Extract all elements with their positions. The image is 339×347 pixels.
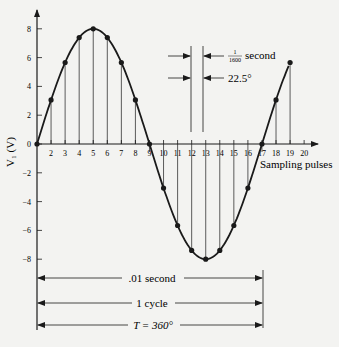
svg-text:second: second bbox=[245, 49, 276, 61]
span-time-label: .01 second bbox=[128, 272, 176, 284]
sample-point bbox=[91, 26, 96, 31]
sample-point bbox=[34, 141, 39, 146]
x-axis-label: Sampling pulses bbox=[260, 158, 332, 170]
x-tick-label: 6 bbox=[105, 149, 109, 158]
y-tick-label: 6 bbox=[27, 54, 31, 63]
sample-point bbox=[287, 60, 292, 65]
sample-point bbox=[245, 185, 250, 190]
interval-angle-label: 22.5° bbox=[228, 72, 252, 84]
y-tick-label: −4 bbox=[22, 198, 31, 207]
y-tick-label: 4 bbox=[27, 82, 31, 91]
sample-point bbox=[119, 60, 124, 65]
sample-point bbox=[147, 141, 152, 146]
sine-sampling-diagram: 86420−2−4−6−8 23456789101112131415161718… bbox=[0, 0, 339, 347]
sample-point bbox=[259, 141, 264, 146]
span-period-label: T = 360° bbox=[133, 319, 173, 331]
x-tick-label: 18 bbox=[272, 149, 280, 158]
sample-point bbox=[273, 97, 278, 102]
sample-point bbox=[63, 60, 68, 65]
sample-point bbox=[48, 97, 53, 102]
sample-point bbox=[133, 97, 138, 102]
y-tick-label: −6 bbox=[22, 226, 31, 235]
sample-point bbox=[175, 223, 180, 228]
x-tick-label: 4 bbox=[77, 149, 81, 158]
sample-point bbox=[217, 248, 222, 253]
span-cycle-label: 1 cycle bbox=[136, 297, 168, 309]
sample-point bbox=[231, 223, 236, 228]
x-tick-label: 7 bbox=[119, 149, 123, 158]
svg-text:1: 1 bbox=[234, 49, 237, 55]
x-ticks: 234567891011121314151617181920 bbox=[49, 140, 308, 158]
x-tick-label: 19 bbox=[286, 149, 294, 158]
x-tick-label: 20 bbox=[300, 149, 308, 158]
x-tick-label: 2 bbox=[49, 149, 53, 158]
y-axis-label: V₁ (V) bbox=[4, 137, 17, 167]
y-tick-label: −2 bbox=[22, 169, 31, 178]
y-tick-label: −8 bbox=[22, 255, 31, 264]
x-tick-label: 3 bbox=[63, 149, 67, 158]
x-tick-label: 8 bbox=[133, 149, 137, 158]
x-tick-label: 5 bbox=[91, 149, 95, 158]
sample-point bbox=[77, 35, 82, 40]
sample-point bbox=[161, 185, 166, 190]
y-tick-label: 8 bbox=[27, 25, 31, 34]
y-tick-label: 2 bbox=[27, 111, 31, 120]
sample-point bbox=[105, 35, 110, 40]
y-tick-label: 0 bbox=[27, 140, 31, 149]
interval-time-label: 1 1600 second bbox=[228, 49, 276, 63]
svg-text:1600: 1600 bbox=[229, 57, 241, 63]
sample-point bbox=[203, 257, 208, 262]
sample-point bbox=[189, 248, 194, 253]
